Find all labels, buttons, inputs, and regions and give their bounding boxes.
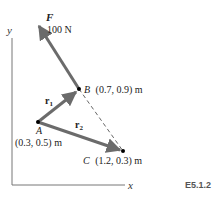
point-a: [36, 120, 40, 124]
point-b-name: B: [84, 84, 90, 95]
point-b: [77, 87, 81, 91]
r1-subscript: 1: [49, 100, 53, 108]
r2-subscript: 2: [79, 124, 83, 132]
point-c: [121, 149, 125, 153]
point-a-coords: (0.3, 0.5) m: [15, 137, 62, 149]
x-axis-label: x: [127, 179, 133, 191]
point-c-label: C (1.2, 0.3) m: [83, 155, 142, 167]
y-axis-label: y: [6, 24, 12, 36]
vector-r1-label: r1: [45, 95, 53, 108]
point-c-coords: (1.2, 0.3) m: [95, 155, 142, 167]
figure-id: E5.1.2: [185, 180, 211, 190]
position-vector-diagram: y x F 100 N B (0.7, 0.9) m A (0.3, 0.5) …: [0, 0, 223, 197]
point-b-label: B (0.7, 0.9) m: [84, 84, 143, 96]
point-c-name: C: [83, 155, 90, 166]
line-b-to-c: [79, 89, 123, 151]
force-magnitude: 100 N: [47, 24, 72, 35]
vector-r1: [38, 92, 76, 122]
vector-r2-label: r2: [75, 119, 83, 132]
force-vector-f: [39, 26, 79, 89]
force-symbol: F: [45, 11, 54, 23]
point-a-name: A: [35, 125, 43, 136]
point-b-coords: (0.7, 0.9) m: [96, 84, 143, 96]
